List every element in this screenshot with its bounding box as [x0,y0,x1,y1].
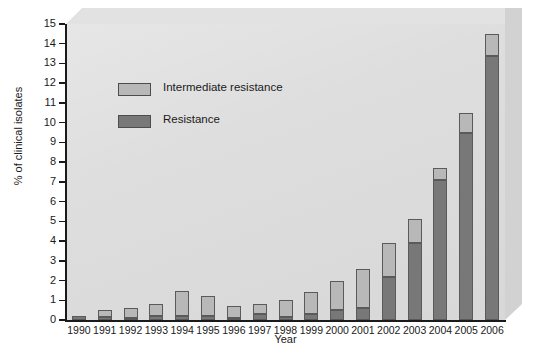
bar-segment-intermediate-resistance [124,308,138,318]
bar-segment-resistance [124,318,138,320]
bar-segment-intermediate-resistance [98,310,112,317]
bar-segment-resistance [459,133,473,320]
bar-segment-intermediate-resistance [253,304,267,314]
bar-group [279,300,293,320]
y-axis-tick [59,82,65,84]
bar-segment-resistance [253,314,267,320]
bar-segment-resistance [433,180,447,320]
bar-group [382,243,396,320]
y-axis-tick [59,201,65,203]
x-axis-label: Year [66,333,505,343]
bar-segment-intermediate-resistance [149,304,163,316]
legend-label-intermediate: Intermediate resistance [163,81,283,93]
bar-group [304,292,318,320]
bar-segment-intermediate-resistance [279,300,293,317]
x-axis-line [65,320,506,322]
legend-swatch-icon-intermediate [118,83,151,96]
y-axis-tick [59,181,65,183]
bar-segment-resistance [227,318,241,320]
y-axis-tick [59,102,65,104]
bar-segment-resistance [279,317,293,320]
y-axis-tick [59,300,65,302]
bar-segment-intermediate-resistance [408,219,422,243]
bar-segment-resistance [408,243,422,320]
y-axis-tick-label: 14 [4,38,56,49]
bar-segment-resistance [72,316,86,320]
y-axis-tick [59,260,65,262]
bar-group [124,308,138,320]
bar-segment-resistance [356,308,370,320]
bar-segment-intermediate-resistance [485,34,499,56]
bar-group [98,310,112,320]
y-axis-tick [59,280,65,282]
y-axis-tick-label: 0 [4,314,56,325]
bar-group [227,306,241,320]
bar-segment-intermediate-resistance [459,113,473,133]
y-axis-tick [59,23,65,25]
bar-group [149,304,163,320]
bar-segment-intermediate-resistance [382,243,396,277]
bar-segment-intermediate-resistance [330,281,344,311]
panel-right-bevel [505,8,522,320]
bar-segment-resistance [201,316,215,320]
bar-segment-intermediate-resistance [356,269,370,308]
bar-segment-resistance [98,317,112,320]
bar-group [433,168,447,320]
y-axis-tick-label: 5 [4,215,56,226]
bar-group [72,316,86,320]
y-axis-tick [59,43,65,45]
y-axis-label: % of clinical isolates [12,56,24,216]
bar-group [459,113,473,320]
legend-label-resistance: Resistance [163,113,220,125]
y-axis-tick [59,240,65,242]
bar-segment-resistance [330,310,344,320]
bar-segment-intermediate-resistance [227,306,241,318]
bar-group [408,219,422,320]
y-axis-tick-label: 2 [4,275,56,286]
bar-segment-resistance [382,277,396,320]
y-axis-tick-label: 15 [4,18,56,29]
bar-segment-resistance [304,314,318,320]
y-axis-tick [59,142,65,144]
bar-segment-intermediate-resistance [175,291,189,316]
y-axis-tick [59,319,65,321]
bar-group [253,304,267,320]
bar-segment-resistance [485,56,499,320]
bar-segment-resistance [149,316,163,320]
bar-group [485,34,499,320]
y-axis-tick-label: 4 [4,235,56,246]
bar-group [175,291,189,320]
y-axis-tick-label: 1 [4,294,56,305]
bar-group [201,296,215,320]
legend-swatch-icon-resistance [118,115,151,128]
y-axis-tick [59,161,65,163]
bar-segment-intermediate-resistance [304,292,318,314]
y-axis-tick [59,63,65,65]
bar-segment-resistance [175,316,189,320]
panel-top-bevel [66,8,521,24]
bar-segment-intermediate-resistance [201,296,215,316]
bar-segment-intermediate-resistance [433,168,447,180]
bar-group [330,281,344,320]
y-axis-tick [59,122,65,124]
bars-layer [66,24,505,320]
bar-group [356,269,370,320]
chart-figure: 0123456789101112131415 % of clinical iso… [0,0,557,343]
y-axis-tick-label: 3 [4,255,56,266]
y-axis-tick [59,221,65,223]
